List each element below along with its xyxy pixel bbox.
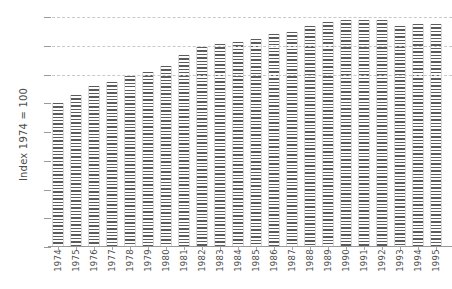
bar xyxy=(196,47,208,247)
y-axis-tick xyxy=(44,247,51,248)
bar xyxy=(322,22,334,248)
x-axis-tick-label: 1974 xyxy=(53,249,63,272)
x-axis-tick-label: 1992 xyxy=(377,249,387,272)
x-axis-tick-label: 1980 xyxy=(161,249,171,272)
bar xyxy=(124,76,136,247)
plot-area: 020406080100120140160 xyxy=(48,10,452,247)
y-axis-tick xyxy=(44,17,51,18)
bar xyxy=(394,26,406,247)
x-axis-tick-label: 1991 xyxy=(359,249,369,272)
y-axis-tick xyxy=(44,161,51,162)
bar xyxy=(358,20,370,247)
x-axis-tick-label: 1986 xyxy=(269,249,279,272)
x-axis-tick-label: 1987 xyxy=(287,249,297,272)
y-gridline xyxy=(52,17,452,18)
bar xyxy=(340,20,352,247)
bar xyxy=(430,24,442,247)
x-axis-tick-label: 1985 xyxy=(251,249,261,272)
x-axis-tick-label: 1977 xyxy=(107,249,117,272)
y-axis-tick xyxy=(44,190,51,191)
x-axis-tick-label: 1988 xyxy=(305,249,315,272)
y-axis-tick xyxy=(44,46,51,47)
bar xyxy=(142,72,154,247)
y-axis-title: Index 1974 = 100 xyxy=(18,65,29,205)
bar xyxy=(250,39,262,247)
y-axis-tick xyxy=(44,75,51,76)
x-axis-tick-label: 1993 xyxy=(395,249,405,272)
bar xyxy=(304,26,316,247)
bar xyxy=(70,95,82,247)
x-axis-tick-label: 1984 xyxy=(233,249,243,272)
y-gridline xyxy=(52,46,452,47)
x-axis-tick-label: 1990 xyxy=(341,249,351,272)
bar xyxy=(160,66,172,247)
x-axis-baseline xyxy=(48,246,452,247)
bar xyxy=(52,103,64,247)
bar xyxy=(286,32,298,247)
bar xyxy=(376,20,388,247)
x-axis-tick-labels: 1974197519761977197819791980198119821983… xyxy=(48,249,452,289)
y-axis-tick xyxy=(44,103,51,104)
bar xyxy=(106,82,118,247)
y-axis-tick xyxy=(44,218,51,219)
x-axis-tick-label: 1982 xyxy=(197,249,207,272)
y-axis-tick xyxy=(44,132,51,133)
x-axis-tick-label: 1979 xyxy=(143,249,153,272)
x-axis-tick-label: 1995 xyxy=(431,249,441,272)
bar xyxy=(232,42,244,247)
bar xyxy=(88,86,100,247)
x-axis-tick-label: 1975 xyxy=(71,249,81,272)
x-axis-tick-label: 1989 xyxy=(323,249,333,272)
x-axis-tick-label: 1976 xyxy=(89,249,99,272)
x-axis-tick-label: 1978 xyxy=(125,249,135,272)
bar xyxy=(178,55,190,247)
x-axis-tick-label: 1983 xyxy=(215,249,225,272)
x-axis-tick-label: 1994 xyxy=(413,249,423,272)
x-axis-tick-label: 1981 xyxy=(179,249,189,272)
y-gridline xyxy=(52,75,452,76)
bar-chart: Index 1974 = 100 020406080100120140160 1… xyxy=(0,0,452,289)
bar xyxy=(268,34,280,247)
bar xyxy=(412,24,424,247)
